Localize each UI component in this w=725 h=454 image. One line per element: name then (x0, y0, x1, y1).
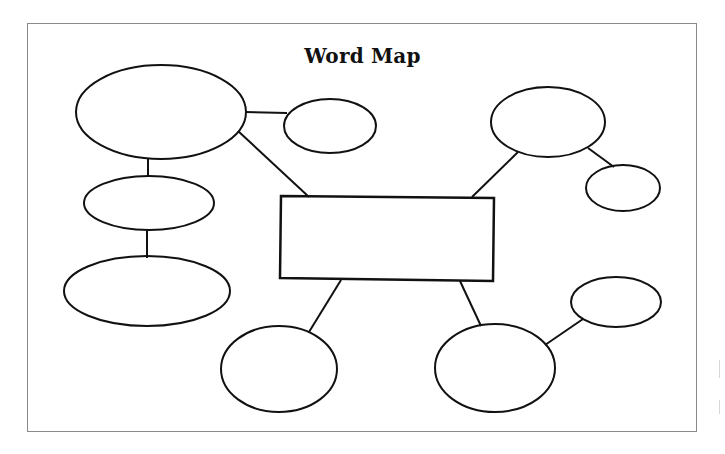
edge-bottomcenterleft-center (309, 280, 341, 332)
node-middle-left[interactable] (84, 176, 214, 230)
edge-topleft-topleftsmall (245, 112, 287, 113)
scan-artifact (719, 360, 720, 378)
edge-bottomcenterright-center (460, 281, 481, 326)
node-bottom-right-small[interactable] (571, 277, 661, 327)
node-bottom-center-left[interactable] (221, 326, 337, 412)
scan-artifact (719, 400, 720, 414)
edge-topleft-center (238, 131, 309, 197)
node-top-left-small[interactable] (284, 99, 376, 153)
word-map-diagram (0, 0, 725, 454)
node-top-right[interactable] (491, 87, 605, 157)
node-bottom-center-right[interactable] (435, 324, 555, 412)
edge-bottomcenterright-bottomrightsmall (545, 319, 583, 345)
edge-topright-toprightsmall (588, 148, 614, 167)
node-top-right-small[interactable] (586, 165, 660, 211)
center-box[interactable] (280, 196, 494, 281)
node-bottom-left[interactable] (64, 256, 230, 326)
edge-topright-center (472, 152, 518, 197)
node-top-left-large[interactable] (76, 65, 246, 159)
